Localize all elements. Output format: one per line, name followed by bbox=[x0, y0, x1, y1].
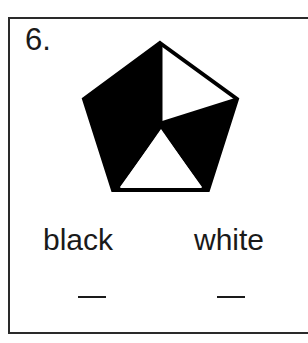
white-answer-blank[interactable] bbox=[217, 296, 245, 298]
white-label: white bbox=[194, 225, 264, 255]
black-answer-blank[interactable] bbox=[78, 296, 106, 298]
black-label: black bbox=[43, 225, 113, 255]
pentagon-figure bbox=[0, 0, 308, 343]
